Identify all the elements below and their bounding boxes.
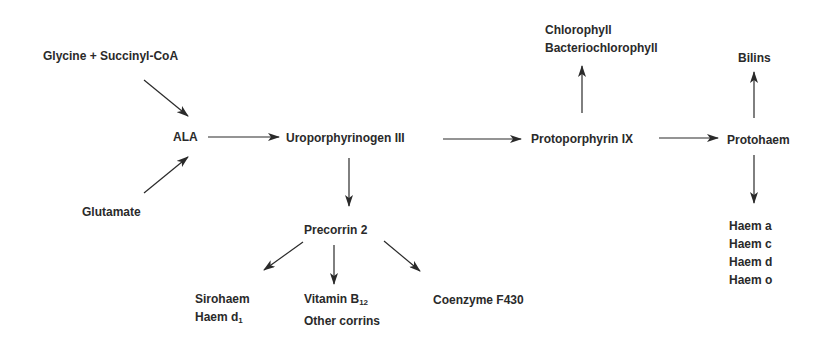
node-label: Glycine + Succinyl-CoA <box>43 49 178 63</box>
node-label: Uroporphyrinogen III <box>286 131 405 145</box>
node-label: ALA <box>173 130 198 144</box>
vitamin-b-text: Vitamin B <box>304 292 359 306</box>
node-label-vitamin-b12: Vitamin B12 <box>304 290 380 312</box>
node-ala: ALA <box>173 128 198 146</box>
node-vitamin-b12: Vitamin B12 Other corrins <box>304 290 380 330</box>
arrow-precorrin-to-coenzyme <box>384 241 420 271</box>
node-label-bacteriochlorophyll: Bacteriochlorophyll <box>545 39 658 57</box>
node-label: Bilins <box>738 51 771 65</box>
haem-d-text: Haem d <box>195 310 238 324</box>
node-precorrin-2: Precorrin 2 <box>304 221 367 239</box>
pathway-diagram: Glycine + Succinyl-CoA Glutamate ALA Uro… <box>0 0 829 340</box>
node-chlorophyll: Chlorophyll Bacteriochlorophyll <box>545 21 658 57</box>
node-label-other-corrins: Other corrins <box>304 312 380 330</box>
node-protohaem: Protohaem <box>727 131 790 149</box>
node-label-haem-o: Haem o <box>729 271 772 289</box>
arrow-glutamate-to-ala <box>144 157 188 193</box>
node-label-haem-d1: Haem d1 <box>195 308 250 330</box>
node-label-haem-a: Haem a <box>729 217 772 235</box>
subscript: 12 <box>359 298 368 307</box>
node-protoporphyrin-ix: Protoporphyrin IX <box>531 130 633 148</box>
node-coenzyme-f430: Coenzyme F430 <box>433 291 524 309</box>
node-uroporphyrinogen-iii: Uroporphyrinogen III <box>286 129 405 147</box>
subscript: 1 <box>238 316 242 325</box>
node-label: Precorrin 2 <box>304 223 367 237</box>
arrow-glycine-to-ala <box>144 80 188 116</box>
node-bilins: Bilins <box>738 49 771 67</box>
node-glutamate: Glutamate <box>82 203 141 221</box>
node-label-haem-d: Haem d <box>729 253 772 271</box>
node-label-haem-c: Haem c <box>729 235 772 253</box>
node-label-chlorophyll: Chlorophyll <box>545 21 658 39</box>
node-label-sirohaem: Sirohaem <box>195 290 250 308</box>
node-label: Protohaem <box>727 133 790 147</box>
arrow-precorrin-to-sirohaem <box>264 242 303 270</box>
node-haems: Haem a Haem c Haem d Haem o <box>729 217 772 289</box>
node-label: Coenzyme F430 <box>433 293 524 307</box>
node-label: Glutamate <box>82 205 141 219</box>
node-label: Protoporphyrin IX <box>531 132 633 146</box>
node-sirohaem: Sirohaem Haem d1 <box>195 290 250 330</box>
node-glycine-succinyl-coa: Glycine + Succinyl-CoA <box>43 47 178 65</box>
